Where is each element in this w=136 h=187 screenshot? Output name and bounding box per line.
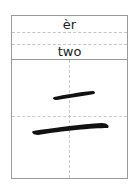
meaning-label: two (12, 45, 127, 59)
character-er-glyph (12, 60, 127, 178)
character-grid (12, 60, 127, 178)
pinyin-label: èr (12, 17, 127, 33)
character-card: èr two (11, 15, 128, 179)
card-header: èr two (12, 16, 127, 60)
